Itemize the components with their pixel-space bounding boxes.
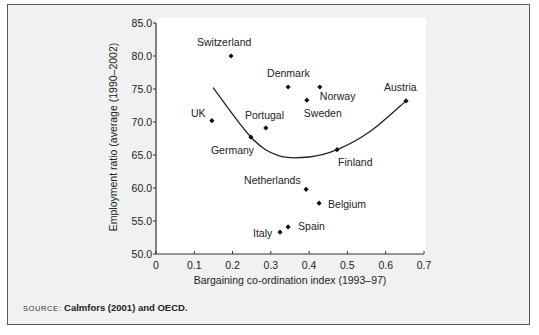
plot-area	[156, 18, 426, 254]
y-axis-label: Employment ratio (average (1990–2002)	[107, 43, 119, 232]
x-tick-label: 0.1	[187, 259, 202, 271]
point-label: Sweden	[304, 107, 342, 119]
x-tick-label: 0.7	[417, 259, 432, 271]
y-tick-label: 70.0	[132, 116, 153, 128]
point-label: Portugal	[245, 109, 284, 121]
y-tick-label: 80.0	[132, 50, 153, 62]
y-tick-label: 50.0	[132, 248, 153, 260]
y-tick-label: 55.0	[132, 215, 153, 227]
x-axis-label: Bargaining co-ordination index (1993–97)	[194, 274, 387, 286]
x-tick-label: 0.5	[340, 259, 355, 271]
point-label: Belgium	[328, 198, 366, 210]
point-label: Spain	[298, 220, 325, 232]
point-label: Denmark	[267, 67, 310, 79]
point-label: Finland	[338, 156, 373, 168]
point-label: Norway	[320, 90, 356, 102]
point-label: Switzerland	[197, 36, 251, 48]
source-label: SOURCE:	[23, 304, 61, 313]
point-label: Austria	[384, 81, 417, 93]
point-label: Germany	[211, 144, 255, 156]
x-tick-label: 0.6	[378, 259, 393, 271]
y-tick-label: 85.0	[132, 17, 153, 29]
x-tick-label: 0.2	[225, 259, 240, 271]
point-label: Italy	[253, 227, 273, 239]
y-tick-label: 75.0	[132, 83, 153, 95]
y-tick-label: 65.0	[132, 149, 153, 161]
y-tick-label: 60.0	[132, 182, 153, 194]
x-tick-label: 0.3	[264, 259, 279, 271]
source-note: SOURCE: Calmfors (2001) and OECD.	[23, 302, 188, 313]
scatter-chart: 50.055.060.065.070.075.080.085.000.10.20…	[0, 0, 539, 335]
point-label: Netherlands	[244, 174, 301, 186]
source-text: Calmfors (2001) and OECD.	[64, 302, 188, 313]
x-tick-label: 0.4	[302, 259, 317, 271]
point-label: UK	[191, 107, 206, 119]
x-tick-label: 0	[153, 259, 159, 271]
